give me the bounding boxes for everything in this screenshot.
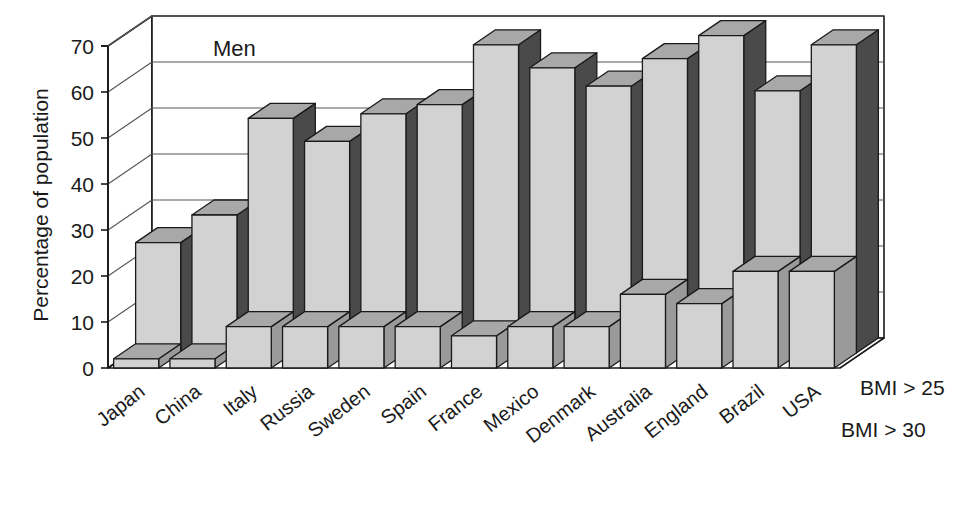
y-tick-label-10: 10 xyxy=(71,311,94,334)
y-tick-label-60: 60 xyxy=(71,81,94,104)
y-tick-label-20: 20 xyxy=(71,265,94,288)
bar-front xyxy=(733,271,778,368)
y-axis-title-group: Percentage of population xyxy=(29,88,52,322)
y-tick-label-40: 40 xyxy=(71,173,94,196)
category-label-spain: Spain xyxy=(376,380,430,429)
chart-root: Percentage of population 010203040506070… xyxy=(0,0,970,510)
y-axis-title: Percentage of population xyxy=(29,88,52,322)
bar-front xyxy=(136,243,181,353)
category-label-italy: Italy xyxy=(219,380,261,420)
bar-front xyxy=(530,68,575,353)
category-label-china: China xyxy=(150,379,205,429)
category-label-sweden: Sweden xyxy=(303,380,374,442)
legend-label-bmi-25: BMI > 25 xyxy=(860,376,945,399)
panel-series-title: Men xyxy=(213,36,256,61)
bar-front xyxy=(226,327,271,368)
category-label-france: France xyxy=(424,380,487,436)
category-label-brazil: Brazil xyxy=(715,380,768,428)
legend: BMI > 25 BMI > 30 xyxy=(841,376,945,441)
category-label-usa: USA xyxy=(778,379,824,422)
y-tick-label-0: 0 xyxy=(82,357,94,380)
bar-front xyxy=(451,336,496,368)
bar-side xyxy=(856,30,878,353)
bar-front xyxy=(395,327,440,368)
bar-front xyxy=(677,304,722,368)
bar-front xyxy=(789,271,834,368)
y-tick-label-30: 30 xyxy=(71,219,94,242)
legend-label-bmi-30: BMI > 30 xyxy=(841,418,926,441)
bar-front xyxy=(620,294,665,368)
category-label-england: England xyxy=(640,380,711,443)
bar-front xyxy=(114,359,159,368)
bar-bmi30-usa xyxy=(789,256,856,368)
bar-front xyxy=(283,327,328,368)
bar-front xyxy=(508,327,553,368)
y-tick-label-group: 010203040506070 xyxy=(71,35,94,380)
bmi-3d-bar-chart: Percentage of population 010203040506070… xyxy=(0,0,970,510)
bar-front xyxy=(473,45,518,353)
y-tick-label-70: 70 xyxy=(71,35,94,58)
bar-front xyxy=(564,327,609,368)
y-tick-label-50: 50 xyxy=(71,127,94,150)
bar-side xyxy=(834,256,856,368)
category-label-japan: Japan xyxy=(92,380,148,431)
bar-front xyxy=(170,359,215,368)
category-label-group: JapanChinaItalyRussiaSwedenSpainFranceMe… xyxy=(92,379,825,447)
bar-front xyxy=(339,327,384,368)
